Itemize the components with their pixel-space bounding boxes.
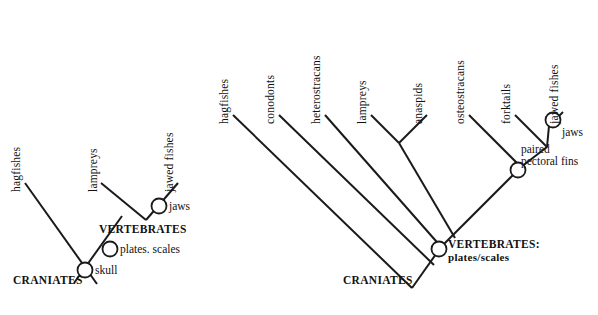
tip-label-jawed-fishes-right: jawed fishes xyxy=(548,64,560,124)
clade-label-vertebrates-sub: plates/scales xyxy=(448,251,540,263)
right-cladogram-nodes xyxy=(0,0,598,315)
clade-label-craniates-right: CRANIATES xyxy=(343,274,413,286)
char-label-jaws-right: jaws xyxy=(562,126,583,138)
cladogram-figure: hagfishes lampreys jawed fishes jaws pla… xyxy=(0,0,598,315)
tip-label-hagfishes-right: hagfishes xyxy=(218,79,230,124)
tip-label-osteostracans-right: osteostracans xyxy=(454,60,466,124)
tip-label-conodonts-right: conodonts xyxy=(264,75,276,124)
clade-label-vertebrates-main: VERTEBRATES: xyxy=(448,238,540,250)
char-label-paired-pectoral-fins-right: paired pectoral fins xyxy=(521,143,578,167)
tip-label-lampreys-right: lampreys xyxy=(356,80,368,124)
node-vertebrates-right xyxy=(432,242,447,257)
tip-label-forktails-right: forktails xyxy=(500,84,512,124)
tip-label-heterostracans-right: heterostracans xyxy=(310,55,322,124)
clade-label-vertebrates-right: VERTEBRATES: plates/scales xyxy=(448,238,540,263)
tip-label-anaspids-right: anaspids xyxy=(412,83,424,124)
char-label-fins-line2: pectoral fins xyxy=(521,155,578,167)
char-label-fins-line1: paired xyxy=(521,143,550,155)
